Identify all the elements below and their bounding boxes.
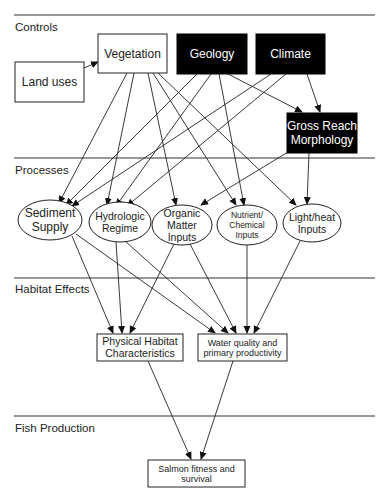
node-label: Light/heat: [289, 211, 335, 223]
node-label: Morphology: [291, 133, 354, 147]
arrow-geology-to-nutrient: [219, 74, 244, 205]
arrow-geology-to-sediment: [66, 74, 197, 205]
node-label: Inputs: [298, 223, 327, 235]
node-gross-reach: Gross ReachMorphology: [287, 113, 357, 153]
node-label: Land uses: [22, 75, 77, 89]
node-label: Gross Reach: [287, 119, 357, 133]
section-label-controls: Controls: [15, 21, 58, 33]
arrow-hydrologic-to-physical-habitat: [116, 242, 122, 333]
node-label: Sediment: [25, 206, 76, 220]
salmon-habitat-diagram: Controls Processes Habitat Effects Fish …: [0, 0, 388, 494]
edges-layer: [59, 62, 320, 459]
node-label: Water quality and: [208, 338, 278, 348]
node-geology: Geology: [177, 34, 247, 74]
section-label-fish-production: Fish Production: [15, 422, 95, 434]
node-label: Organic: [164, 207, 201, 219]
section-label-habitat-effects: Habitat Effects: [15, 283, 90, 295]
node-label: Nutrient/: [231, 210, 264, 220]
node-label: Regime: [102, 222, 138, 234]
node-label: Matter: [167, 219, 197, 231]
node-label: Salmon fitness and: [158, 464, 235, 474]
node-water-quality: Water quality andprimary productivity: [198, 334, 287, 361]
section-habitat-effects: Habitat Effects: [14, 278, 375, 295]
arrow-climate-to-gross-reach: [307, 74, 320, 112]
arrow-sediment-to-water-quality: [76, 234, 215, 333]
arrow-climate-to-hydrologic: [127, 74, 286, 206]
node-label: Physical Habitat: [102, 335, 177, 347]
node-label: Vegetation: [104, 47, 161, 61]
arrow-gross-reach-to-light: [307, 153, 309, 204]
node-label: Supply: [32, 220, 69, 234]
node-label: survival: [181, 474, 212, 484]
arrow-light-to-water-quality: [254, 241, 300, 333]
node-land-uses: Land uses: [15, 62, 84, 102]
node-label: Inputs: [168, 231, 197, 243]
arrow-vegetation-to-nutrient: [153, 73, 236, 205]
arrow-vegetation-to-hydrologic: [107, 73, 134, 205]
arrow-water-quality-to-salmon: [201, 361, 233, 459]
arrow-geology-to-hydrologic: [116, 74, 211, 206]
node-salmon: Salmon fitness andsurvival: [148, 460, 245, 487]
nodes-layer: Land usesVegetationGeologyClimateGross R…: [15, 34, 357, 487]
arrow-geology-to-gross-reach: [228, 74, 302, 112]
node-light: Light/heatInputs: [283, 204, 341, 242]
section-processes: Processes: [14, 158, 375, 176]
section-fish-production: Fish Production: [14, 416, 375, 434]
node-organic: OrganicMatterInputs: [152, 205, 212, 245]
node-climate: Climate: [256, 34, 325, 74]
arrow-land-uses-to-vegetation: [84, 62, 98, 68]
node-label: primary productivity: [203, 348, 282, 358]
node-label: Characteristics: [105, 347, 174, 359]
node-label: Chemical: [229, 220, 265, 230]
arrow-organic-to-physical-habitat: [130, 244, 174, 333]
section-label-processes: Processes: [15, 164, 69, 176]
node-label: Hydrologic: [95, 210, 145, 222]
node-sediment: SedimentSupply: [18, 200, 82, 240]
node-vegetation: Vegetation: [98, 34, 167, 73]
node-physical-habitat: Physical HabitatCharacteristics: [97, 334, 183, 361]
arrow-climate-to-sediment: [72, 74, 271, 206]
node-hydrologic: HydrologicRegime: [89, 202, 151, 242]
arrow-gross-reach-to-organic: [201, 152, 288, 205]
node-label: Climate: [270, 47, 311, 61]
node-nutrient: Nutrient/ChemicalInputs: [217, 205, 277, 245]
node-label: Inputs: [235, 230, 258, 240]
node-label: Geology: [190, 47, 235, 61]
section-controls: Controls: [14, 15, 375, 33]
arrow-physical-habitat-to-salmon: [148, 361, 191, 459]
